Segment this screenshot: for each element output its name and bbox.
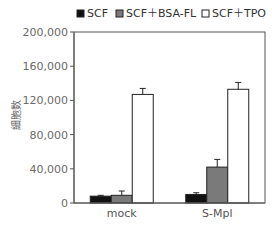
legend-label: SCF＋TPO [212, 7, 266, 20]
legend-swatch [116, 10, 123, 17]
y-tick-label: 200,000 [23, 26, 69, 39]
bar-scf-tpo-s-mpl [228, 89, 249, 203]
bar-scf-s-mpl [186, 194, 207, 203]
legend: SCFSCF＋BSA-FLSCF＋TPO [77, 7, 266, 20]
legend-label: SCF [87, 7, 108, 20]
y-tick-label: 160,000 [23, 60, 69, 73]
x-axis: mockS-Mpl [74, 203, 265, 220]
x-tick-label: S-Mpl [202, 207, 232, 220]
bar-scf-bsa-fl-mock [111, 195, 132, 203]
y-axis: 040,00080,000120,000160,000200,000 [23, 26, 75, 210]
legend-swatch [202, 10, 209, 17]
legend-label: SCF＋BSA-FL [126, 7, 197, 20]
bar-chart: SCFSCF＋BSA-FLSCF＋TPO 細胞数 040,00080,00012… [0, 0, 272, 229]
bar-scf-mock [90, 196, 111, 203]
bar-scf-tpo-mock [132, 94, 153, 203]
bars [90, 82, 249, 203]
y-axis-label: 細胞数 [10, 100, 22, 130]
bar-scf-bsa-fl-s-mpl [207, 167, 228, 203]
y-tick-label: 80,000 [30, 129, 69, 142]
x-tick-label: mock [107, 207, 137, 220]
y-tick-label: 120,000 [23, 94, 69, 107]
legend-swatch [77, 10, 84, 17]
y-tick-label: 40,000 [30, 163, 69, 176]
y-tick-label: 0 [61, 197, 68, 210]
